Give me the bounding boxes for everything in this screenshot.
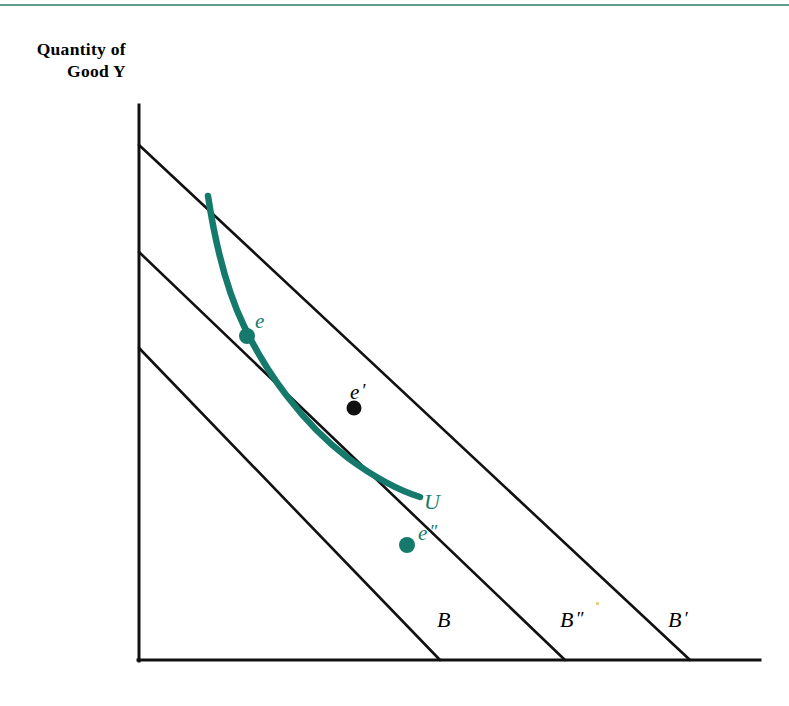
point-e-label: e xyxy=(255,311,264,332)
budget-line-b-double-prime-label-mark: ″ xyxy=(573,608,583,629)
budget-line-b-double-prime xyxy=(139,252,565,660)
budget-line-b-double-prime-label-text: B xyxy=(560,607,573,632)
budget-line-b-prime-label-mark: ′ xyxy=(681,608,687,629)
point-e-double-prime-label-mark: ″ xyxy=(427,521,437,542)
point-e-prime-label-text: e xyxy=(350,380,359,404)
budget-indifference-plot xyxy=(0,0,789,706)
point-e-prime-label-mark: ′ xyxy=(359,380,365,401)
point-e-label-text: e xyxy=(255,309,264,333)
utility-curve-label: U xyxy=(424,491,440,513)
point-e-double-prime-label: e″ xyxy=(418,522,437,544)
budget-line-b-label-text: B xyxy=(437,607,450,632)
figure-canvas: Quantity of Good Y e e′ e″ U xyxy=(0,0,789,706)
budget-line-b-label: B xyxy=(437,609,450,631)
point-e-double-prime-label-text: e xyxy=(418,521,427,545)
budget-line-b-double-prime-label: B″ xyxy=(560,609,583,631)
point-e-prime-label: e′ xyxy=(350,381,365,403)
paper-speck xyxy=(596,602,599,605)
budget-line-b-prime xyxy=(139,145,690,660)
point-e-double-prime-marker xyxy=(399,537,415,553)
budget-line-b-prime-label-text: B xyxy=(668,607,681,632)
point-e-marker xyxy=(239,328,255,344)
budget-line-b-prime-label: B′ xyxy=(668,609,688,631)
utility-curve-label-text: U xyxy=(424,489,440,514)
